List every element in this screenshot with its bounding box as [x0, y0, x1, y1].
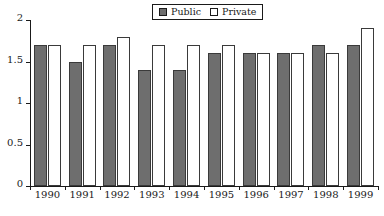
x-axis-label-1992: 1992: [100, 190, 135, 200]
bar-group: [100, 20, 135, 186]
bar-public-1997: [277, 53, 290, 186]
x-axis-label-1993: 1993: [134, 190, 169, 200]
bar-group: [30, 20, 65, 186]
bar-public-1999: [347, 45, 360, 186]
bar-group: [239, 20, 274, 186]
bar-group: [343, 20, 378, 186]
bar-group: [308, 20, 343, 186]
legend-label-public: Public: [171, 7, 201, 17]
x-axis-tick: [378, 186, 379, 190]
filled-square-icon: [159, 8, 167, 16]
bar-public-1993: [138, 70, 151, 186]
bar-public-1995: [208, 53, 221, 186]
bar-public-1996: [243, 53, 256, 186]
bar-private-1997: [291, 53, 304, 186]
y-axis-tick-label: 1.5: [7, 55, 23, 65]
bar-private-1996: [257, 53, 270, 186]
bar-chart: Public Private 00.511.52 199019911992199…: [0, 0, 384, 216]
y-axis-tick-label: 0.5: [7, 138, 23, 148]
bar-group: [169, 20, 204, 186]
bar-private-1990: [48, 45, 61, 186]
legend-entry-public: Public: [159, 7, 201, 17]
x-axis-label-1999: 1999: [343, 190, 378, 200]
y-axis-tick-label: 0: [17, 179, 23, 189]
bar-group: [65, 20, 100, 186]
x-axis-label-1998: 1998: [308, 190, 343, 200]
legend-label-private: Private: [222, 7, 256, 17]
bar-private-1991: [83, 45, 96, 186]
bar-public-1994: [173, 70, 186, 186]
legend-entry-private: Private: [210, 7, 256, 17]
bar-private-1995: [222, 45, 235, 186]
y-axis-tick-label: 2: [17, 13, 23, 23]
bar-private-1992: [117, 37, 130, 186]
x-axis-label-1991: 1991: [65, 190, 100, 200]
chart-legend: Public Private: [152, 4, 263, 20]
open-square-icon: [210, 8, 218, 16]
bar-private-1998: [326, 53, 339, 186]
plot-area: 00.511.52: [30, 20, 378, 186]
y-axis-tick-label: 1: [17, 96, 23, 106]
bar-public-1991: [69, 62, 82, 187]
x-axis-label-1995: 1995: [204, 190, 239, 200]
bar-group: [134, 20, 169, 186]
bar-public-1990: [34, 45, 47, 186]
x-axis-label-1996: 1996: [239, 190, 274, 200]
x-axis-label-1994: 1994: [169, 190, 204, 200]
bar-group: [274, 20, 309, 186]
bar-private-1993: [152, 45, 165, 186]
x-axis-label-1990: 1990: [30, 190, 65, 200]
x-axis-label-1997: 1997: [274, 190, 309, 200]
bar-public-1998: [312, 45, 325, 186]
bar-group: [204, 20, 239, 186]
bar-private-1994: [187, 45, 200, 186]
bar-private-1999: [361, 28, 374, 186]
bar-public-1992: [103, 45, 116, 186]
